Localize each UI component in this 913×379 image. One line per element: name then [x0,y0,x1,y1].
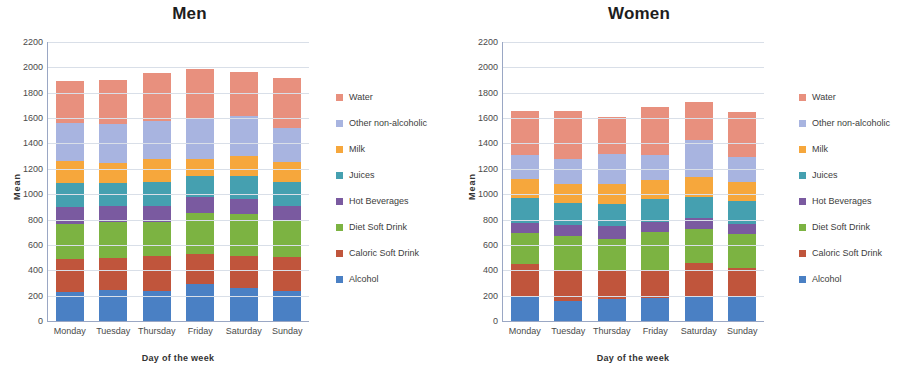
bar-segment[interactable] [56,161,84,183]
bar-segment[interactable] [641,180,669,198]
y-axis-tick-label: 1400 [23,138,43,148]
bar-segment[interactable] [598,117,626,154]
y-axis-tick-label: 400 [483,265,498,275]
bar-column[interactable]: Thursday [598,42,626,321]
bar-segment[interactable] [56,207,84,224]
bar-segment[interactable] [230,116,258,156]
bar-column[interactable]: Thursday [143,42,171,321]
y-axis-tick-label: 200 [28,291,43,301]
bar-column[interactable]: Sunday [728,42,756,321]
bar-segment[interactable] [186,69,214,120]
bar-segment[interactable] [99,163,127,183]
bar-segment[interactable] [230,288,258,321]
bar-segment[interactable] [598,226,626,239]
legend-item[interactable]: Milk [336,136,456,162]
bar-column[interactable]: Monday [511,42,539,321]
bar-segment[interactable] [685,297,713,321]
bar-column[interactable]: Saturday [685,42,713,321]
bar-segment[interactable] [641,298,669,321]
bar-segment[interactable] [56,224,84,259]
bar-segment[interactable] [598,270,626,299]
bar-segment[interactable] [641,270,669,298]
bar-segment[interactable] [598,204,626,226]
bar-segment[interactable] [273,221,301,257]
bar-segment[interactable] [511,233,539,264]
bar-column[interactable]: Friday [186,42,214,321]
bar-segment[interactable] [511,296,539,321]
bar-segment[interactable] [728,268,756,297]
bar-segment[interactable] [143,73,171,121]
bar-segment[interactable] [56,123,84,161]
bar-segment[interactable] [56,81,84,123]
bar-column[interactable]: Saturday [230,42,258,321]
bar-segment[interactable] [728,234,756,268]
bar-segment[interactable] [186,119,214,159]
bar-segment[interactable] [511,264,539,296]
bar-segment[interactable] [230,199,258,215]
bar-segment[interactable] [273,162,301,182]
bar-segment[interactable] [99,222,127,258]
bar-segment[interactable] [728,224,756,234]
bar-segment[interactable] [728,296,756,321]
legend-item[interactable]: Caloric Soft Drink [799,240,913,266]
bar-segment[interactable] [598,239,626,270]
bar-column[interactable]: Monday [56,42,84,321]
legend-item[interactable]: Diet Soft Drink [799,214,913,240]
legend-item[interactable]: Other non-alcoholic [799,110,913,136]
bar-segment[interactable] [143,256,171,290]
bar-segment[interactable] [143,222,171,256]
bar-segment[interactable] [554,225,582,236]
bar-segment[interactable] [511,155,539,179]
bar-segment[interactable] [554,159,582,184]
bar-segment[interactable] [728,201,756,224]
legend-item[interactable]: Hot Beverages [336,188,456,214]
bar-segment[interactable] [143,121,171,159]
bar-segment[interactable] [186,159,214,175]
bar-segment[interactable] [273,257,301,291]
bar-segment[interactable] [554,301,582,321]
bar-segment[interactable] [230,156,258,176]
bar-column[interactable]: Tuesday [554,42,582,321]
bar-segment[interactable] [186,254,214,284]
bar-segment[interactable] [728,182,756,202]
bar-column[interactable]: Sunday [273,42,301,321]
bar-segment[interactable] [641,232,669,270]
bar-segment[interactable] [230,256,258,288]
bar-segment[interactable] [685,263,713,297]
bar-segment[interactable] [99,258,127,290]
bar-segment[interactable] [685,197,713,218]
bar-segment[interactable] [186,197,214,213]
bar-segment[interactable] [641,222,669,232]
bar-segment[interactable] [56,259,84,292]
legend-item[interactable]: Juices [799,162,913,188]
bar-segment[interactable] [641,107,669,155]
legend-item[interactable]: Milk [799,136,913,162]
bar-segment[interactable] [511,179,539,198]
legend-item[interactable]: Water [336,84,456,110]
bar-segment[interactable] [230,72,258,116]
legend-item[interactable]: Alcohol [336,266,456,292]
legend-item[interactable]: Other non-alcoholic [336,110,456,136]
legend-item[interactable]: Diet Soft Drink [336,214,456,240]
bar-segment[interactable] [273,128,301,162]
bar-segment[interactable] [685,140,713,177]
bar-segment[interactable] [554,203,582,225]
bar-segment[interactable] [186,284,214,321]
legend-item[interactable]: Hot Beverages [799,188,913,214]
legend-item[interactable]: Water [799,84,913,110]
bar-segment[interactable] [143,159,171,182]
bar-segment[interactable] [230,176,258,198]
bar-segment[interactable] [641,155,669,180]
bar-segment[interactable] [511,223,539,233]
bar-segment[interactable] [273,78,301,127]
legend-item[interactable]: Caloric Soft Drink [336,240,456,266]
legend-item[interactable]: Alcohol [799,266,913,292]
bar-segment[interactable] [230,214,258,256]
bar-column[interactable]: Friday [641,42,669,321]
legend-item[interactable]: Juices [336,162,456,188]
bar-segment[interactable] [99,290,127,321]
bar-column[interactable]: Tuesday [99,42,127,321]
bar-segment[interactable] [554,236,582,271]
bar-segment[interactable] [598,299,626,321]
bar-segment[interactable] [685,102,713,141]
